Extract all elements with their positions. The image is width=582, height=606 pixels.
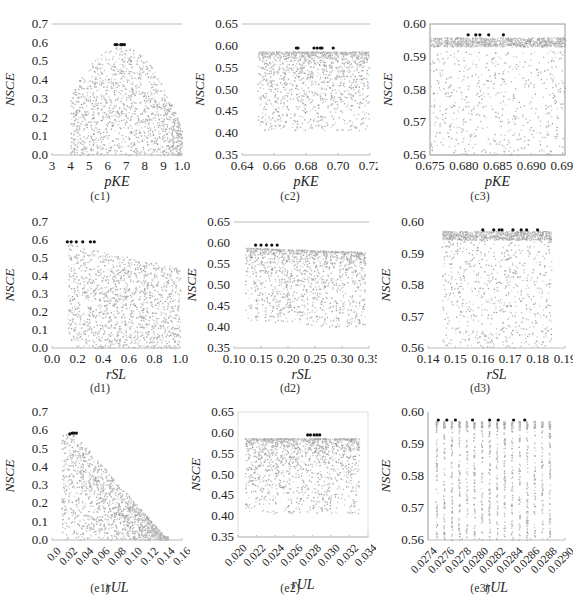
x-tick-label: 0.0 [44,351,60,366]
y-tick-label: 0.6 [32,232,49,247]
x-tick-label: 0.18 [526,351,549,366]
y-tick-label: 0.65 [215,18,238,31]
x-tick-label: 0.690 [517,158,546,173]
x-tick-label: 4 [67,158,74,173]
x-tick-label: 8 [142,158,149,173]
y-tick-label: 0.0 [32,532,48,547]
x-tick-label: 0.14 [417,351,440,366]
y-tick-label: 0.5 [32,441,48,456]
chart-panel-d1: 0.00.10.20.30.40.50.60.70.00.20.40.60.81… [4,216,188,400]
chart-panel-e3: 0.560.570.580.590.600.02740.02760.02780.… [380,406,573,606]
panel-caption-d2: (d2) [260,381,320,396]
panel-caption-c2: (c2) [260,189,320,204]
x-tick-label: 0.10 [223,351,246,366]
x-tick-label: 6 [104,158,111,173]
x-tick-label: 0.8 [146,351,162,366]
x-tick-label: 0.16 [471,351,494,366]
point-cloud [245,248,366,328]
chart-panel-e2: 0.350.400.450.500.550.600.650.0200.0220.… [190,406,376,605]
y-tick-label: 0.3 [32,477,48,492]
x-tick-label: 0.66 [263,158,286,173]
best-points [306,433,321,436]
chart-panel-e1: 0.00.10.20.30.40.50.60.70.00.020.040.060… [4,406,190,606]
point-cloud [436,421,552,541]
scatter-plot-c2: 0.350.400.450.500.550.600.650.640.660.68… [194,18,378,203]
y-tick-label: 0.5 [32,53,48,68]
x-tick-label: 0.16 [170,544,190,567]
y-tick-label: 0.4 [32,459,49,474]
scatter-plot-c3: 0.560.570.580.590.600.6750.6800.6850.690… [382,18,573,203]
y-tick-label: 0.59 [403,49,426,64]
y-tick-label: 0.45 [211,487,234,502]
y-tick-label: 0.40 [207,319,230,334]
y-tick-label: 0.1 [32,322,48,337]
y-tick-label: 0.4 [32,72,49,87]
best-points [254,244,279,247]
x-tick-label: 0.680 [449,158,478,173]
panel-caption-e3: (e3) [450,581,510,596]
y-tick-label: 0.56 [401,532,424,547]
panel-caption-e2: (e2) [260,581,320,596]
x-tick-label: 0.19 [554,351,573,366]
scatter-plot-d3: 0.560.570.580.590.600.140.150.160.170.18… [380,216,573,396]
y-tick-label: 0.6 [32,35,49,50]
best-points [481,228,539,231]
y-tick-label: 0.60 [211,425,234,440]
y-axis-title: NSCE [4,459,17,494]
chart-panel-c1: 0.00.10.20.30.40.50.60.734567891.0pKENSC… [4,18,190,207]
y-tick-label: 0.60 [215,38,238,53]
y-tick-label: 0.3 [32,286,48,301]
y-tick-label: 0.0 [32,147,48,162]
best-points [114,43,126,46]
x-axis-title: rSL [106,367,126,382]
y-tick-label: 0.59 [401,436,424,451]
scatter-plot-d2: 0.350.400.450.500.550.600.650.100.150.20… [186,216,377,396]
x-tick-label: 0.72 [359,158,378,173]
x-tick-label: 0.15 [444,351,467,366]
chart-panel-c2: 0.350.400.450.500.550.600.650.640.660.68… [194,18,378,207]
y-tick-label: 0.4 [32,268,49,283]
x-tick-label: 0.4 [95,351,112,366]
scatter-plot-e1: 0.00.10.20.30.40.50.60.70.00.020.040.060… [4,406,190,604]
x-tick-label: 0.68 [295,158,318,173]
y-axis-title: NSCE [380,459,393,494]
scatter-plot-e3: 0.560.570.580.590.600.02740.02760.02780.… [380,406,573,604]
y-axis-title: NSCE [194,72,207,107]
x-tick-label: 0.30 [331,351,354,366]
point-cloud [442,231,553,349]
y-tick-label: 0.60 [401,406,424,419]
y-tick-label: 0.45 [207,298,230,313]
y-axis-title: NSCE [190,457,203,492]
y-axis-title: NSCE [380,268,393,303]
scatter-plot-d1: 0.00.10.20.30.40.50.60.70.00.20.40.60.81… [4,216,188,396]
y-tick-label: 0.7 [32,216,49,229]
best-points [295,46,335,49]
x-axis-title: pKE [293,174,319,189]
y-tick-label: 0.58 [401,277,424,292]
y-tick-label: 0.59 [401,246,424,261]
x-axis-title: rSL [486,367,506,382]
y-tick-label: 0.3 [32,91,48,106]
y-tick-label: 0.55 [215,60,238,75]
y-tick-label: 0.60 [403,18,426,31]
x-tick-label: 0.20 [277,351,300,366]
y-tick-label: 0.35 [211,529,234,544]
point-cloud [430,37,566,156]
y-tick-label: 0.50 [211,467,234,482]
y-tick-label: 0.65 [211,406,234,419]
x-tick-label: 0.6 [121,351,138,366]
y-tick-label: 0.55 [211,446,234,461]
y-tick-label: 0.40 [211,508,234,523]
x-tick-label: 0.25 [304,351,327,366]
y-tick-label: 0.50 [215,82,238,97]
x-tick-label: 9 [160,158,167,173]
best-points [68,431,78,435]
x-tick-label: 0.15 [250,351,273,366]
y-tick-label: 0.60 [401,216,424,229]
panel-caption-c3: (c3) [450,189,510,204]
point-cloud [70,45,183,156]
x-tick-label: 0.2 [69,351,85,366]
y-tick-label: 0.50 [207,277,230,292]
y-tick-label: 0.6 [32,422,49,437]
chart-panel-d2: 0.350.400.450.500.550.600.650.100.150.20… [186,216,377,400]
